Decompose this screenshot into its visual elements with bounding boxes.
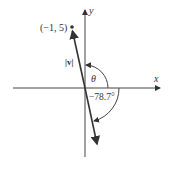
x-axis-label: x	[153, 73, 159, 84]
magnitude-label: |v|	[65, 57, 73, 67]
vector-v	[73, 31, 86, 88]
point-label: (−1, 5)	[40, 22, 67, 34]
point-marker	[70, 25, 74, 29]
y-axis-label: y	[88, 5, 94, 16]
vector-angle-diagram: (−1, 5) y x |v| θ −78.7°	[0, 0, 171, 172]
theta-label: θ	[91, 73, 96, 84]
angle-label: −78.7°	[89, 92, 115, 102]
theta-arc	[86, 65, 108, 88]
diagram-canvas: (−1, 5) y x |v| θ −78.7°	[0, 0, 171, 172]
